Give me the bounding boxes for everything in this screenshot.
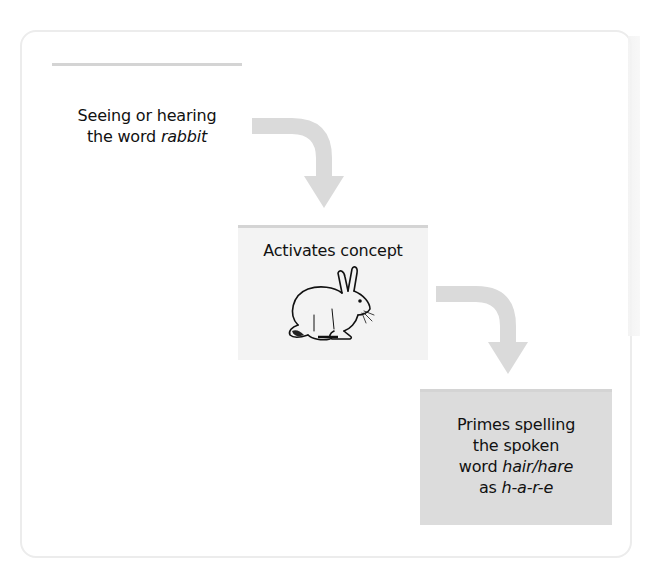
- step-3-line-1: Primes spelling: [420, 414, 612, 435]
- rabbit-illustration-icon: [278, 265, 388, 349]
- word-rabbit: rabbit: [161, 127, 207, 146]
- step-3-line-2: the spoken: [420, 435, 612, 456]
- step-1-line-1: Seeing or hearing: [52, 105, 242, 126]
- curved-arrow-down-icon: [252, 118, 352, 210]
- frame-edge-shadow: [628, 36, 640, 336]
- step-3-box: Primes spelling the spoken word hair/har…: [420, 392, 612, 525]
- step-1-box: Seeing or hearing the word rabbit: [52, 66, 242, 186]
- step-2-title: Activates concept: [238, 240, 428, 261]
- step-1-text: Seeing or hearing the word rabbit: [52, 105, 242, 147]
- spelling-h-a-r-e: h-a-r-e: [502, 478, 553, 497]
- step-3-line-4: as h-a-r-e: [420, 477, 612, 498]
- step-3-line-3: word hair/hare: [420, 456, 612, 477]
- word-hair-hare: hair/hare: [502, 457, 573, 476]
- step-2-box: Activates concept: [238, 228, 428, 360]
- step-1-line-2: the word rabbit: [52, 126, 242, 147]
- step-3-text: Primes spelling the spoken word hair/har…: [420, 414, 612, 498]
- curved-arrow-down-icon: [436, 286, 536, 376]
